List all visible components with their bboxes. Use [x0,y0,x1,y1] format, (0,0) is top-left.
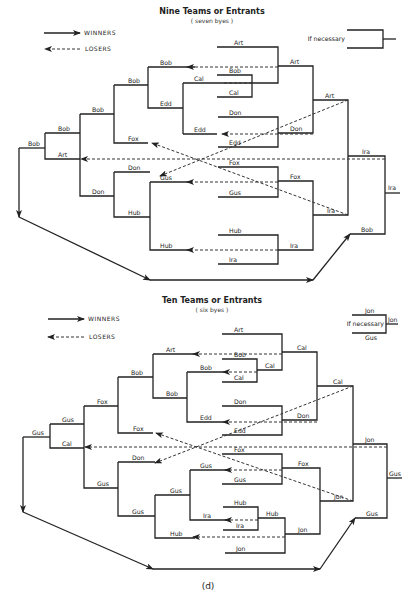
if-necessary-label: If necessary [308,35,346,43]
team-label: Gus [170,487,182,494]
if-necessary-box: If necessary [308,30,396,48]
team-label: Art [234,39,244,46]
team-label: Fox [133,425,144,432]
team-label: Art [58,151,68,158]
double-elimination-diagram: Nine Teams or Entrants ( seven byes ) WI… [0,0,417,602]
team-label: Fox [290,173,301,180]
team-label: Don [297,412,310,419]
ten-teams-bracket: Ten Teams or Entrants ( six byes ) WINNE… [23,296,402,569]
team-label: Bob [361,226,373,233]
team-label: Bob [58,125,70,132]
team-label: Gus [32,429,44,436]
team-label: Don [132,454,145,461]
team-label: Hub [229,227,242,234]
team-label: Fox [229,159,240,166]
team-label: Gus [97,480,109,487]
nine-teams-bracket: Nine Teams or Entrants ( seven byes ) WI… [19,7,400,280]
team-label: Jon [364,436,375,444]
team-label: Edd [200,414,212,421]
team-label: Don [128,164,141,171]
team-label: Ira [236,522,244,529]
team-label: Gus [366,510,378,517]
team-label: Gus [389,470,401,477]
team-label: Fox [128,135,139,142]
nine-teams-subtitle: ( seven byes ) [191,17,233,25]
team-label: Cal [62,440,72,447]
team-label: Jon [387,316,398,324]
winners-bracket: Art Bob Cal Cal Art Don Edd Don Art Fox … [183,39,400,264]
team-label: Ira [388,184,396,191]
team-label: Hub [234,499,247,506]
legend: WINNERS LOSERS [44,29,116,52]
team-label: Hub [128,209,141,216]
legend-losers: LOSERS [89,333,115,340]
team-label: Hub [170,530,183,537]
team-label: Art [325,92,335,99]
team-label: Edd [229,139,241,146]
team-label: Gus [234,476,246,483]
team-label: Fox [298,460,309,467]
if-necessary-label: If necessary [347,320,385,328]
team-label: Bob [200,364,212,371]
team-label: Gus [200,462,212,469]
legend: WINNERS LOSERS [48,315,120,340]
team-label: Bob [128,77,140,84]
team-label: Ira [290,242,298,249]
nine-teams-title: Nine Teams or Entrants [159,7,265,16]
if-necessary-box: Jon If necessary Gus Jon [347,307,398,341]
team-label: Cal [333,378,343,385]
team-label: Ira [229,256,237,263]
team-label: Don [234,398,247,405]
winners-bracket: Art Bob Cal Cal Cal Don Edd Don Cal Fox … [222,326,402,553]
team-label: Edd [160,100,172,107]
team-label: Gus [132,508,144,515]
figure-caption: (d) [202,581,215,591]
team-label: Cal [265,362,275,369]
team-label: Bob [166,390,178,397]
team-label: Hub [160,242,173,249]
team-label: Ira [362,148,370,155]
team-label: Fox [97,398,108,405]
team-label: Bob [160,59,172,66]
team-label: Hub [266,510,279,517]
team-label: Art [234,326,244,333]
team-label: Ira [203,512,211,519]
ten-teams-subtitle: ( six byes ) [196,306,229,314]
team-label: Jon [364,307,375,315]
legend-winners: WINNERS [84,29,116,36]
team-label: Bob [92,106,104,113]
team-label: Don [229,109,242,116]
team-label: Bob [28,140,40,147]
team-label: Gus [229,189,241,196]
team-label: Don [290,125,303,132]
team-label: Gus [62,416,74,423]
team-label: Jon [297,526,308,534]
team-label: Don [92,188,105,195]
team-label: Jon [235,545,246,553]
team-label: Art [290,58,300,65]
team-label: Cal [229,89,239,96]
legend-winners: WINNERS [88,315,120,322]
legend-losers: LOSERS [85,45,111,52]
team-label: Gus [365,334,377,341]
team-label: Cal [194,75,204,82]
team-label: Cal [234,374,244,381]
team-label: Bob [131,369,143,376]
team-label: Bob [229,67,241,74]
team-label: Cal [297,344,307,351]
ten-teams-title: Ten Teams or Entrants [162,296,262,305]
team-label: Edd [194,126,206,133]
team-label: Art [166,346,176,353]
